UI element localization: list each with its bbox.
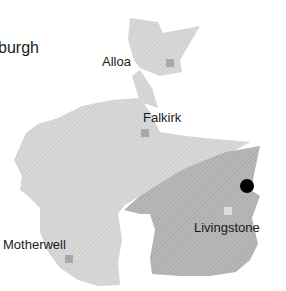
label-alloa: Alloa — [102, 55, 131, 68]
town-marker-alloa[interactable] — [166, 59, 174, 67]
label-motherwell: Motherwell — [3, 238, 66, 251]
label-edinburgh-partial: burgh — [0, 40, 39, 56]
town-marker-livingstone[interactable] — [224, 207, 232, 215]
town-marker-falkirk[interactable] — [141, 129, 149, 137]
label-livingstone: Livingstone — [194, 221, 260, 234]
label-falkirk: Falkirk — [143, 111, 181, 124]
region-alloa[interactable] — [128, 18, 200, 76]
location-dot-icon[interactable] — [240, 179, 254, 193]
town-marker-motherwell[interactable] — [65, 255, 73, 263]
